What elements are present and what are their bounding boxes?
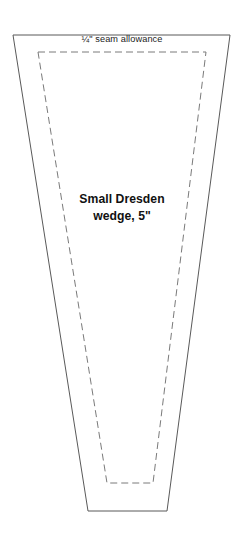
dresden-wedge-diagram [0, 0, 244, 540]
cutting-line-outline [13, 35, 230, 511]
pattern-template-canvas: ¼" seam allowance Small Dresden wedge, 5… [0, 0, 244, 540]
